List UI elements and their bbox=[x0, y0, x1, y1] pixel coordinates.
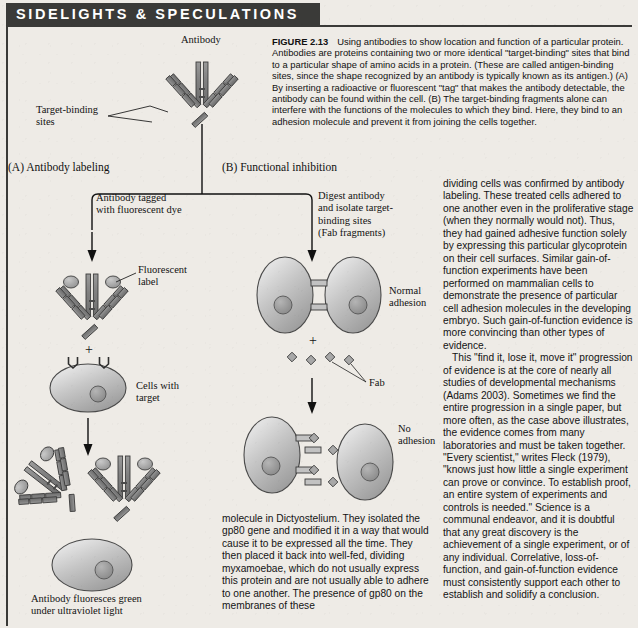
cells-with-target-label: Cells with target bbox=[136, 380, 179, 405]
figure-caption-text: Using antibodies to show location and fu… bbox=[272, 36, 629, 127]
textbook-page: SIDELIGHTS & SPECULATIONS FIGURE 2.13Usi… bbox=[0, 0, 638, 628]
fab-leader-line-2 bbox=[351, 364, 366, 382]
antibody-label: Antibody bbox=[181, 34, 221, 46]
fab-leader-line-1 bbox=[332, 362, 366, 382]
cell-with-target-icon bbox=[50, 357, 126, 412]
figure-label: FIGURE 2.13 bbox=[272, 36, 328, 47]
sidebar-banner: SIDELIGHTS & SPECULATIONS bbox=[6, 3, 320, 25]
body-paragraph-right-2: This "find it, lose it, move it" progres… bbox=[443, 352, 634, 601]
page-side-rule bbox=[6, 25, 8, 626]
target-binding-sites-label: Target-binding sites bbox=[36, 104, 98, 129]
fab-label: Fab bbox=[369, 377, 385, 389]
fab-fragments-icon bbox=[287, 352, 354, 365]
target-binding-leader-line bbox=[108, 106, 168, 116]
arrow-a-2 bbox=[84, 444, 93, 456]
antibody-tagged-icon bbox=[56, 274, 128, 339]
no-adhesion-icon bbox=[244, 417, 393, 500]
arrow-b-1 bbox=[308, 250, 317, 262]
arrow-b-2 bbox=[308, 402, 317, 414]
fluorescent-label-text: Fluorescent label bbox=[138, 264, 187, 289]
banner-title: SIDELIGHTS & SPECULATIONS bbox=[6, 6, 299, 22]
panel-b-label: (B) Functional inhibition bbox=[222, 161, 337, 173]
plus-sign-b: + bbox=[309, 335, 317, 347]
fluorescent-leader-line bbox=[116, 273, 136, 282]
body-column-right: dividing cells was confirmed by antibody… bbox=[443, 178, 634, 601]
fluorescent-label-right bbox=[106, 276, 121, 288]
plus-sign-a: + bbox=[85, 344, 93, 356]
body-column-middle: molecule in Dictyostelium. They isolated… bbox=[222, 513, 432, 613]
body-paragraph-right-1: dividing cells was confirmed by antibody… bbox=[443, 178, 634, 352]
antibody-top-icon bbox=[166, 62, 238, 127]
banner-horizontal-rule bbox=[6, 25, 632, 27]
body-paragraph-middle-1: molecule in Dictyostelium. They isolated… bbox=[222, 513, 432, 613]
digest-antibody-label: Digest antibody and isolate target- bind… bbox=[318, 190, 393, 240]
fluorescent-label-left bbox=[64, 276, 79, 288]
antibody-fluoresces-label: Antibody fluoresces green under ultravio… bbox=[31, 593, 142, 618]
figure-caption: FIGURE 2.13Using antibodies to show loca… bbox=[272, 36, 634, 127]
arrow-a-1 bbox=[88, 250, 97, 262]
panel-a-label: (A) Antibody labeling bbox=[8, 161, 110, 173]
normal-adhesion-label: Normal adhesion bbox=[389, 285, 426, 310]
antibody-tagged-label: Antibody tagged with fluorescent dye bbox=[96, 192, 182, 217]
no-adhesion-label: No adhesion bbox=[398, 423, 435, 448]
bound-antibody-complex-icon bbox=[6, 437, 161, 591]
normal-adhesion-icon bbox=[257, 257, 381, 333]
